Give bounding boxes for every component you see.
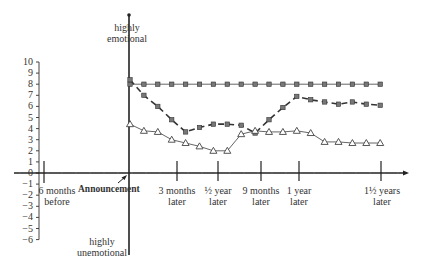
triangle-marker-icon [335, 138, 342, 144]
y-tick-label: 8 [13, 79, 33, 89]
y-tick-label: 10 [13, 57, 33, 67]
square-marker-icon [170, 82, 174, 86]
square-marker-icon [142, 82, 146, 86]
y-tick-label: 9 [13, 68, 33, 78]
square-marker-icon [336, 82, 340, 86]
square-marker-icon [197, 125, 201, 129]
square-marker-icon [239, 123, 243, 127]
square-marker-icon [267, 82, 271, 86]
y-tick-label: 6 [13, 101, 33, 111]
label-line: later [354, 196, 410, 207]
label-highly-unemotional: highly unemotional [72, 236, 132, 258]
y-tick-label: −5 [13, 224, 33, 234]
square-marker-icon [378, 103, 382, 107]
square-marker-icon [336, 102, 340, 106]
label-line: later [279, 196, 319, 207]
x-axis-arrow-icon [403, 171, 409, 176]
label-line: highly [72, 236, 132, 247]
triangle-marker-icon [377, 140, 384, 146]
y-tick-label: −2 [13, 190, 33, 200]
label-half-year-later: ½ year later [198, 185, 238, 207]
triangle-marker-icon [168, 136, 175, 142]
series-group [127, 78, 384, 154]
label-announcement: Announcement [78, 184, 138, 195]
square-marker-icon [309, 98, 313, 102]
triangle-marker-icon [321, 138, 328, 144]
label-line: unemotional [72, 247, 132, 258]
triangle-marker-icon [140, 127, 147, 133]
y-tick-label: −1 [13, 179, 33, 189]
square-marker-icon [364, 82, 368, 86]
label-line: 1 year [279, 185, 319, 196]
axis-top-dot [127, 13, 131, 17]
square-marker-icon [197, 82, 201, 86]
y-tick-label: 5 [13, 113, 33, 123]
label-line: before [35, 196, 79, 207]
label-line: ½ year [198, 185, 238, 196]
square-marker-icon [322, 82, 326, 86]
label-line: highly [97, 22, 157, 33]
axes [14, 13, 409, 255]
triangle-marker-icon [127, 121, 134, 127]
label-1-year-later: 1 year later [279, 185, 319, 207]
square-marker-icon [183, 130, 187, 134]
line-chart [0, 0, 429, 272]
square-marker-icon [364, 102, 368, 106]
square-marker-icon [281, 105, 285, 109]
square-marker-icon [156, 104, 160, 108]
square-marker-icon [322, 100, 326, 104]
square-marker-icon [295, 94, 299, 98]
square-marker-icon [309, 82, 313, 86]
square-marker-icon [225, 82, 229, 86]
label-line: emotional [97, 33, 157, 44]
square-marker-icon [170, 118, 174, 122]
label-line: 6 months [35, 185, 79, 196]
square-marker-icon [267, 118, 271, 122]
square-marker-icon [211, 82, 215, 86]
square-marker-icon [142, 93, 146, 97]
square-marker-icon [183, 82, 187, 86]
label-highly-emotional: highly emotional [97, 22, 157, 44]
square-marker-icon [281, 82, 285, 86]
label-line: 3 months [152, 185, 202, 196]
square-marker-icon [128, 78, 132, 82]
label-line: later [152, 196, 202, 207]
square-marker-icon [225, 122, 229, 126]
square-marker-icon [211, 122, 215, 126]
y-tick-label: 7 [13, 90, 33, 100]
y-tick-label: 1 [13, 157, 33, 167]
label-1-5-years-later: 1½ years later [354, 185, 410, 207]
y-tick-label: 4 [13, 124, 33, 134]
y-tick-label: 0 [13, 168, 33, 178]
label-6-months-before: 6 months before [35, 185, 79, 207]
triangle-marker-icon [363, 140, 370, 146]
square-marker-icon [378, 82, 382, 86]
label-line: 1½ years [354, 185, 410, 196]
series-line [130, 80, 380, 133]
square-marker-icon [295, 82, 299, 86]
y-tick-label: −6 [13, 235, 33, 245]
square-marker-icon [239, 82, 243, 86]
square-marker-icon [156, 82, 160, 86]
y-tick-label: −4 [13, 212, 33, 222]
y-tick-label: −3 [13, 201, 33, 211]
triangle-marker-icon [293, 127, 300, 133]
square-marker-icon [350, 82, 354, 86]
square-marker-icon [350, 100, 354, 104]
series-2 [127, 121, 384, 154]
label-line: later [198, 196, 238, 207]
series-0 [128, 82, 383, 86]
y-tick-label: 2 [13, 146, 33, 156]
y-tick-label: 3 [13, 135, 33, 145]
label-3-months-later: 3 months later [152, 185, 202, 207]
square-marker-icon [253, 82, 257, 86]
